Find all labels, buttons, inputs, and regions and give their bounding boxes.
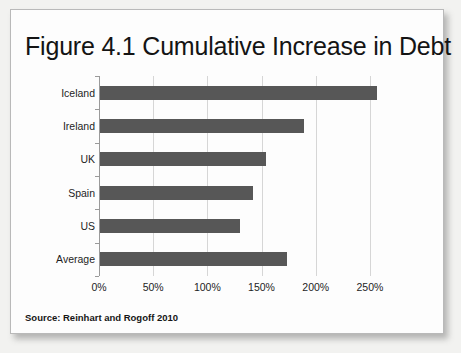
chart-title: Figure 4.1 Cumulative Increase in Debt [25,32,451,61]
x-axis-tick-label: 150% [248,281,275,293]
category-axis-tick [95,176,99,177]
bar-uk [100,152,266,166]
gridline [370,76,371,276]
plot-area: 0%50%100%150%200%250% [99,76,397,276]
category-axis-tick [95,109,99,110]
gridline [262,76,263,276]
screenshot-page: Figure 4.1 Cumulative Increase in Debt I… [0,0,461,353]
x-axis-tick-label: 0% [91,281,106,293]
category-label-spain: Spain [15,187,95,199]
category-label-ireland: Ireland [15,120,95,132]
chart-sheet: Figure 4.1 Cumulative Increase in Debt I… [10,9,444,334]
bar-average [100,252,287,266]
source-note: Source: Reinhart and Rogoff 2010 [25,312,178,323]
bar-spain [100,186,253,200]
x-axis-tick-label: 250% [356,281,383,293]
gridline [316,76,317,276]
category-axis-tick [95,209,99,210]
x-axis-tick-label: 100% [194,281,221,293]
gridline [153,76,154,276]
x-axis-tick-label: 50% [143,281,164,293]
category-label-iceland: Iceland [15,87,95,99]
bar-us [100,219,240,233]
category-axis-labels: IcelandIrelandUKSpainUSAverage [11,76,95,291]
gridline [207,76,208,276]
category-axis-tick [95,76,99,77]
category-label-average: Average [15,253,95,265]
category-axis-tick [95,243,99,244]
x-axis-tick-label: 200% [302,281,329,293]
category-label-us: US [15,220,95,232]
category-label-uk: UK [15,153,95,165]
value-axis-line [99,76,100,276]
bar-iceland [100,86,377,100]
bar-ireland [100,119,304,133]
category-axis-tick [95,276,99,277]
chart-plot-wrapper: IcelandIrelandUKSpainUSAverage 0%50%100%… [11,76,443,291]
category-axis-tick [95,143,99,144]
